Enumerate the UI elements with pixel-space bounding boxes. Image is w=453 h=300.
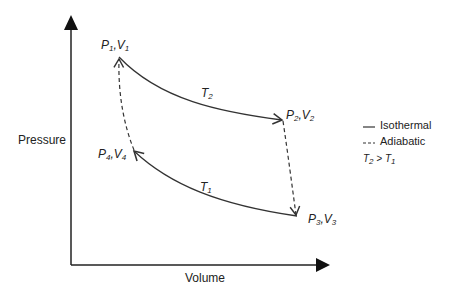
point-label-4: P4,V4: [98, 147, 126, 162]
adiabat-expansion: [283, 121, 296, 215]
x-axis-arrow: [316, 258, 330, 272]
carnot-diagram: [0, 0, 453, 300]
temp-label-hot: T2: [201, 86, 213, 101]
isotherm-cold: [134, 151, 297, 216]
adiabat-compression: [119, 59, 134, 150]
temp-label-cold: T1: [200, 180, 212, 195]
point-label-1: P1,V1: [101, 38, 129, 53]
x-axis-label: Volume: [185, 271, 225, 285]
legend-relation: T2 > T1: [363, 153, 396, 166]
legend-isothermal: Isothermal: [380, 119, 431, 131]
point-label-2: P2,V2: [286, 108, 314, 123]
point-label-3: P3,V3: [308, 212, 336, 227]
y-axis-label: Pressure: [18, 133, 66, 147]
y-axis-arrow: [64, 15, 78, 30]
legend-adiabatic: Adiabatic: [380, 135, 425, 147]
